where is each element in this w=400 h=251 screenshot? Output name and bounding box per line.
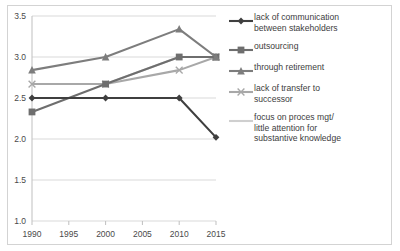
data-point-square: [102, 81, 109, 88]
x-axis-tick-label: 2015: [207, 229, 226, 239]
x-axis-labels-group: 199019952000200520102015: [23, 229, 226, 239]
y-axis-tick-label: 2.0: [14, 134, 26, 144]
y-axis-tick-label: 1.5: [14, 175, 26, 185]
legend-item-label: focus on proces mgt/ little attention fo…: [254, 112, 341, 144]
data-point-square: [238, 47, 245, 54]
data-point-diamond: [238, 18, 245, 25]
x-axis-tick-label: 2000: [96, 229, 115, 239]
legend-marker-cross-icon: [228, 84, 254, 96]
legend-item[interactable]: lack of communication between stakeholde…: [228, 12, 388, 33]
x-axis-tick-label: 2010: [170, 229, 189, 239]
legend-item[interactable]: outsourcing: [228, 41, 388, 54]
series-line: [32, 98, 216, 137]
x-axis-tick-label: 2005: [133, 229, 152, 239]
data-point-diamond: [29, 95, 36, 102]
x-axis-tick-label: 1995: [59, 229, 78, 239]
data-point-diamond: [102, 95, 109, 102]
legend-item-label: through retirement: [254, 62, 324, 73]
x-axis-tick-label: 1990: [23, 229, 42, 239]
series-line: [32, 29, 216, 70]
y-axis-tick-label: 3.5: [14, 11, 26, 21]
legend-marker-diamond-icon: [228, 13, 254, 25]
series-line: [32, 57, 216, 84]
data-series: [29, 54, 220, 88]
legend-marker-square-icon: [228, 42, 254, 54]
legend-marker-none-icon: [228, 113, 254, 125]
data-point-triangle: [175, 25, 183, 32]
data-point-square: [176, 54, 183, 61]
legend-marker-triangle-icon: [228, 63, 254, 75]
data-series-group: [28, 25, 220, 141]
legend-item[interactable]: focus on proces mgt/ little attention fo…: [228, 112, 388, 144]
y-axis-tick-label: 2.5: [14, 93, 26, 103]
y-axis-tick-label: 1.0: [14, 216, 26, 226]
y-axis-tick-label: 3.0: [14, 52, 26, 62]
chart-legend: lack of communication between stakeholde…: [228, 12, 388, 152]
legend-item-label: lack of transfer to successor: [254, 83, 320, 104]
legend-item-label: outsourcing: [254, 41, 298, 52]
legend-item[interactable]: through retirement: [228, 62, 388, 75]
chart-container: 1.01.52.02.53.03.5 199019952000200520102…: [0, 0, 400, 251]
legend-item[interactable]: lack of transfer to successor: [228, 83, 388, 104]
y-axis-labels-group: 1.01.52.02.53.03.5: [14, 11, 26, 226]
data-point-square: [29, 109, 36, 116]
gridlines-group: [32, 16, 216, 221]
legend-item-label: lack of communication between stakeholde…: [254, 12, 339, 33]
x-axis-ticks-group: [32, 221, 216, 225]
